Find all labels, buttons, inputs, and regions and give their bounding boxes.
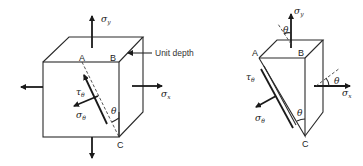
point-a-label: A: [252, 48, 258, 58]
cube-right-face: [119, 37, 143, 137]
unit-depth-label: Unit depth: [155, 48, 194, 58]
cube-top-face: [43, 37, 143, 62]
theta-top-label: θ: [283, 25, 289, 35]
sigma-theta-label: σθ: [76, 110, 86, 121]
stress-diagram: σy σx τθ σθ θ A B C Unit depth σy θ: [0, 0, 363, 166]
sigma-theta-label: σθ: [255, 113, 265, 124]
sigma-theta-arrow: [256, 96, 276, 107]
theta-right-label: θ: [334, 76, 340, 86]
point-c-label: C: [117, 140, 124, 150]
theta-bottom-arc: [297, 119, 305, 121]
theta-right-arc: [326, 78, 329, 86]
tau-theta-line: [261, 69, 293, 128]
tau-theta-label: τθ: [76, 87, 85, 98]
tau-theta-line-inner: [264, 66, 296, 125]
cube-front-face: [43, 62, 119, 137]
left-cube-figure: σy σx τθ σθ θ A B C Unit depth: [21, 14, 194, 158]
theta-arc: [112, 118, 119, 122]
point-c-label: C: [302, 139, 309, 149]
theta-bottom-label: θ: [297, 108, 303, 118]
point-b-label: B: [298, 48, 304, 58]
point-a-label: A: [79, 53, 85, 63]
sigma-x-label: σx: [161, 89, 171, 100]
theta-label: θ: [111, 106, 117, 116]
point-b-label: B: [110, 53, 116, 63]
right-wedge-figure: σy θ θ σx τθ σθ θ A B C: [246, 6, 352, 149]
wedge-right-face: [305, 40, 323, 136]
sigma-x-label: σx: [342, 88, 352, 99]
tau-theta-label: τθ: [246, 72, 255, 83]
sigma-theta-arrow: [74, 96, 98, 106]
sigma-y-label: σy: [101, 14, 111, 26]
sigma-y-label: σy: [294, 6, 304, 18]
